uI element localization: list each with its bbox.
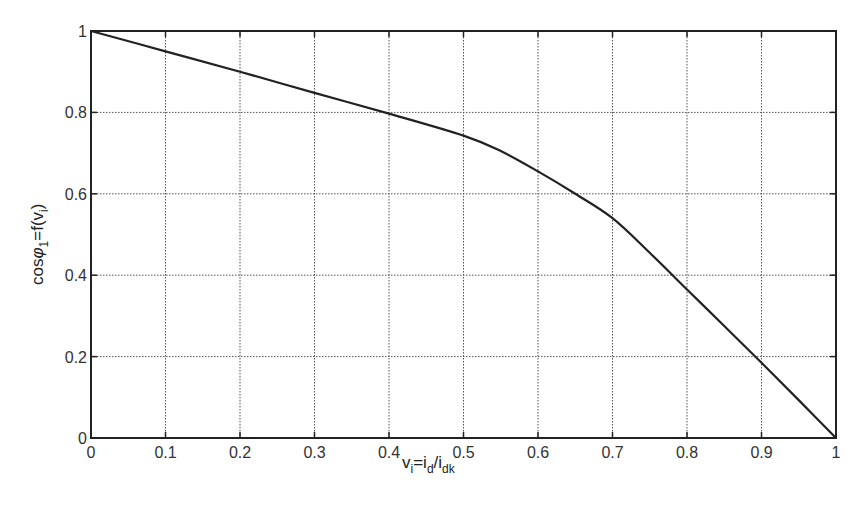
grid-lines — [91, 31, 836, 438]
x-tick-label: 0.6 — [527, 444, 549, 461]
y-tick-label: 0.6 — [65, 186, 87, 203]
y-tick-label: 0 — [78, 430, 87, 447]
y-tick-label: 0.4 — [65, 267, 87, 284]
y-tick-label: 0.2 — [65, 349, 87, 366]
x-tick-label: 0.8 — [676, 444, 698, 461]
x-tick-label: 0.3 — [303, 444, 325, 461]
y-tick-label: 1 — [78, 23, 87, 40]
axis-ticks: 00.10.20.30.40.50.60.70.80.9100.20.40.60… — [65, 23, 841, 461]
x-tick-label: 0.1 — [154, 444, 176, 461]
x-tick-label: 0.7 — [601, 444, 623, 461]
x-tick-label: 0.4 — [378, 444, 400, 461]
x-tick-label: 0.2 — [229, 444, 251, 461]
line-chart: 00.10.20.30.40.50.60.70.80.9100.20.40.60… — [0, 0, 868, 519]
y-axis-label: cosφ1=f(vi) — [28, 204, 51, 285]
x-tick-label: 1 — [832, 444, 841, 461]
x-axis-label: vi=id/idk — [402, 453, 456, 476]
y-tick-label: 0.8 — [65, 104, 87, 121]
x-tick-label: 0.9 — [750, 444, 772, 461]
x-tick-label: 0.5 — [452, 444, 474, 461]
x-tick-label: 0 — [87, 444, 96, 461]
